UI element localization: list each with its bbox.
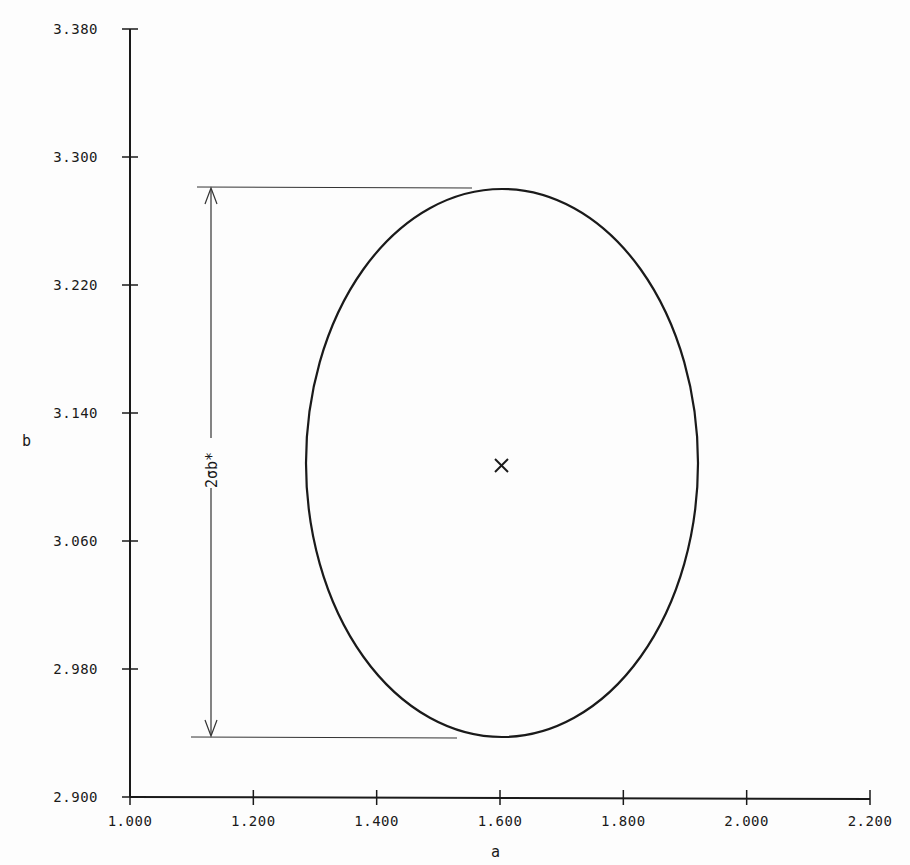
lower-extent-line — [191, 737, 457, 738]
y-axis-label: b — [22, 432, 31, 450]
x-tick-labels: 1.0001.2001.4001.6001.8002.0002.200 — [108, 813, 893, 829]
y-tick-label: 3.060 — [53, 533, 98, 549]
x-tick-label: 1.400 — [354, 813, 399, 829]
axes — [130, 29, 870, 799]
x-axis-label: a — [491, 843, 500, 861]
x-tick-label: 1.600 — [478, 813, 523, 829]
confidence-ellipse — [306, 189, 698, 737]
center-x-icon — [495, 459, 508, 472]
dimension-label: 2σb* — [203, 452, 221, 488]
upper-extent-line — [197, 187, 472, 188]
x-tick-label: 1.200 — [231, 813, 276, 829]
y-tick-label: 3.300 — [53, 149, 98, 165]
dimension-annotation — [191, 187, 472, 738]
x-tick-label: 2.000 — [724, 813, 769, 829]
y-tick-label: 2.900 — [53, 789, 98, 805]
y-tick-label: 2.980 — [53, 661, 98, 677]
x-tick-label: 2.200 — [848, 813, 893, 829]
chart-canvas: 2.9002.9803.0603.1403.2203.3003.380 1.00… — [0, 0, 910, 865]
y-tick-label: 3.380 — [53, 21, 98, 37]
x-tick-label: 1.800 — [601, 813, 646, 829]
y-tick-label: 3.220 — [53, 277, 98, 293]
y-tick-label: 3.140 — [53, 405, 98, 421]
y-tick-labels: 2.9002.9803.0603.1403.2203.3003.380 — [53, 21, 98, 805]
x-tick-label: 1.000 — [108, 813, 153, 829]
